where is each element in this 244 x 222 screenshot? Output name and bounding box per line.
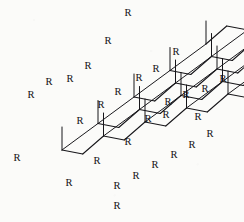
r-substituent-label: R <box>162 109 169 120</box>
r-substituent-label: R <box>144 113 151 124</box>
bond-segment <box>238 55 244 73</box>
r-substituent-label: R <box>76 115 83 126</box>
bond-segment <box>62 150 83 154</box>
r-substituent-label: R <box>66 73 73 84</box>
r-substituent-label: R <box>113 180 120 191</box>
r-substituent-label: R <box>219 73 226 84</box>
r-substituent-label: R <box>151 159 158 170</box>
bond-segment <box>134 97 155 101</box>
r-substituent-label: R <box>27 89 34 100</box>
r-substituent-label: R <box>84 60 91 71</box>
r-substituent-label: R <box>124 7 131 18</box>
bond-segment <box>83 136 104 154</box>
r-substituent-label: R <box>201 83 208 94</box>
bond-segment <box>212 57 233 61</box>
r-substituent-label: R <box>206 128 213 139</box>
bond-segment <box>207 94 228 112</box>
r-substituent-label: R <box>113 200 120 211</box>
r-substituent-label: R <box>132 170 139 181</box>
r-substituent-label: R <box>182 89 189 100</box>
bond-segment <box>104 136 125 140</box>
lattice-substituent-bonds <box>62 0 244 150</box>
r-substituent-label: R <box>97 99 104 110</box>
bond-segment <box>170 71 191 75</box>
lattice-zigzag-chains <box>62 0 244 154</box>
r-substituent-label: R <box>188 139 195 150</box>
r-substituent-label: R <box>172 46 179 57</box>
lattice-rails <box>62 0 244 150</box>
chemical-structure-figure: RRRRRRRRRRRRRRRRRRRRRRRRRRRRRR <box>0 0 244 222</box>
bond-segment <box>217 69 238 73</box>
r-substituent-label: R <box>13 152 20 163</box>
lattice-diagram-svg: RRRRRRRRRRRRRRRRRRRRRRRRRRRRRR <box>0 0 244 222</box>
bond-segment <box>206 26 227 44</box>
bond-segment <box>176 83 197 87</box>
bond-segment <box>191 57 212 75</box>
bond-segment <box>232 43 244 61</box>
bond-segment <box>98 124 119 128</box>
r-substituent-label: R <box>152 63 159 74</box>
r-substituent-label: R <box>45 76 52 87</box>
r-substituent-label: R <box>170 149 177 160</box>
r-substituent-label: R <box>124 136 131 147</box>
r-substituent-label: R <box>164 96 171 107</box>
bond-segment <box>228 94 244 98</box>
r-substituent-label: R <box>194 111 201 122</box>
r-substituent-label: R <box>104 35 111 46</box>
r-substituent-label: R <box>135 72 142 83</box>
bond-segment <box>227 26 244 30</box>
r-substituent-label: R <box>114 86 121 97</box>
r-substituent-label: R <box>65 177 72 188</box>
r-substituent-label: R <box>93 155 100 166</box>
bond-segment <box>119 110 140 128</box>
rail-segment <box>228 0 244 94</box>
